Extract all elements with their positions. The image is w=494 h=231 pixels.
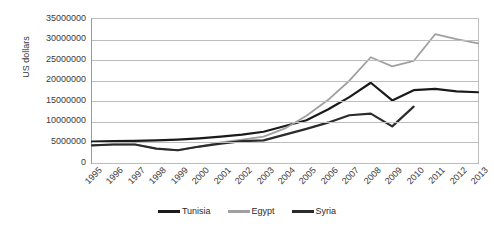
gridline	[92, 163, 478, 164]
legend-item-tunisia[interactable]: Tunisia	[158, 206, 211, 216]
legend-swatch-icon	[158, 210, 180, 213]
y-axis-tick-label: 15000000	[10, 96, 86, 105]
line-chart: US dollars 35000000300000002500000020000…	[0, 0, 494, 231]
series-line-egypt	[92, 34, 478, 150]
series-line-syria	[92, 107, 414, 151]
y-axis-labels: US dollars 35000000300000002500000020000…	[8, 0, 86, 231]
gridline	[92, 122, 478, 123]
y-axis-tick-label: 0	[10, 158, 86, 167]
x-axis-labels: 1995199619971998199920002001200220032004…	[91, 165, 477, 203]
y-axis-tick-label: 5000000	[10, 137, 86, 146]
series-lines	[92, 19, 478, 163]
legend-label: Tunisia	[182, 206, 211, 216]
legend-label: Syria	[316, 206, 337, 216]
legend-label: Egypt	[252, 206, 275, 216]
y-axis-tick-label: 10000000	[10, 116, 86, 125]
legend-item-syria[interactable]: Syria	[292, 206, 337, 216]
legend-swatch-icon	[292, 210, 314, 213]
y-axis-tick-label: 30000000	[10, 34, 86, 43]
gridline	[92, 40, 478, 41]
y-axis-tick-label: 35000000	[10, 14, 86, 23]
y-axis-tick-label: 25000000	[10, 55, 86, 64]
series-line-tunisia	[92, 83, 478, 142]
legend-swatch-icon	[228, 210, 250, 213]
gridline	[92, 101, 478, 102]
plot-area	[91, 18, 479, 164]
gridline	[92, 81, 478, 82]
y-axis-tick-label: 20000000	[10, 75, 86, 84]
gridline	[92, 60, 478, 61]
legend-item-egypt[interactable]: Egypt	[228, 206, 275, 216]
chart-legend: TunisiaEgyptSyria	[0, 203, 494, 219]
gridline	[92, 142, 478, 143]
